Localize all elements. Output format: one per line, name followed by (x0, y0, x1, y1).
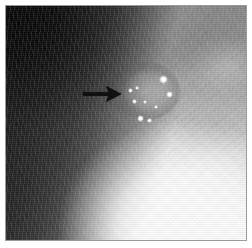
radiographic-image[interactable] (6, 6, 246, 240)
figure-root (0, 0, 252, 248)
image-plate-frame (5, 5, 247, 241)
calcification-7 (137, 115, 144, 122)
calcification-1 (159, 75, 168, 84)
calcification-5 (132, 99, 137, 104)
calcification-8 (147, 118, 152, 123)
calcification-6 (143, 100, 147, 104)
roi-arrow-icon (82, 84, 122, 104)
image-scanline-layer (6, 6, 246, 240)
calcification-9 (154, 105, 158, 109)
calcification-3 (128, 88, 133, 93)
calcification-4 (135, 86, 139, 90)
calcification-2 (166, 91, 173, 98)
